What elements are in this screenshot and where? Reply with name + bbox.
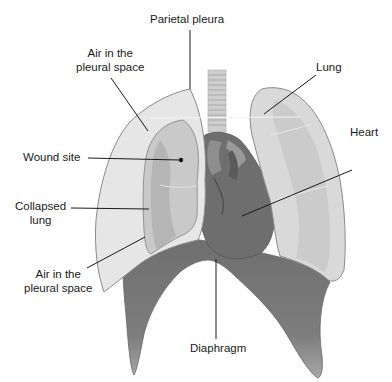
label-diaphragm: Diaphragm — [190, 342, 246, 356]
label-text: Wound site — [23, 151, 80, 163]
label-text: Diaphragm — [190, 342, 246, 354]
label-text: Heart — [350, 126, 378, 138]
pneumothorax-diagram: Parietal pleura Air in the pleural space… — [0, 0, 392, 382]
label-text: pleural space — [76, 61, 144, 75]
label-collapsed-lung: Collapsed lung — [15, 200, 66, 227]
label-text: pleural space — [24, 282, 92, 296]
label-text: Collapsed — [15, 200, 66, 214]
label-text: Lung — [316, 61, 342, 73]
wound-site-marker — [179, 158, 183, 162]
label-text: Air in the — [24, 268, 92, 282]
label-text: Parietal pleura — [150, 13, 224, 25]
label-text: Air in the — [76, 47, 144, 61]
label-parietal-pleura: Parietal pleura — [150, 13, 224, 27]
label-air-pleural-space-top: Air in the pleural space — [76, 47, 144, 74]
label-heart: Heart — [350, 126, 378, 140]
label-text: lung — [15, 214, 66, 228]
label-lung: Lung — [316, 61, 342, 75]
trachea — [208, 70, 226, 132]
anatomy-illustration — [0, 0, 392, 382]
label-wound-site: Wound site — [23, 151, 80, 165]
label-air-pleural-space-bottom: Air in the pleural space — [24, 268, 92, 295]
